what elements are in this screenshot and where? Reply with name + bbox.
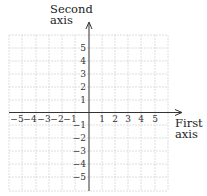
x-tick: −2 xyxy=(50,114,63,124)
coordinate-plane: −5 −4 −3 −2 −1 1 2 3 4 5 5 4 3 2 1 −1 −2… xyxy=(0,0,207,196)
y-tick: 5 xyxy=(80,43,86,53)
y-tick: 2 xyxy=(80,82,86,92)
axes xyxy=(9,22,182,191)
x-tick: 5 xyxy=(152,114,158,124)
x-axis-label: First axis xyxy=(175,118,203,140)
x-tick: 4 xyxy=(138,114,144,124)
x-axis-label-line-2: axis xyxy=(175,129,203,140)
y-tick: 3 xyxy=(80,69,86,79)
y-tick: −1 xyxy=(73,120,86,130)
y-tick: −2 xyxy=(73,133,86,143)
x-tick: −4 xyxy=(23,114,37,124)
y-tick: −4 xyxy=(73,159,87,169)
y-tick: −5 xyxy=(73,172,87,182)
y-tick: 4 xyxy=(80,56,86,66)
x-tick: −3 xyxy=(37,114,51,124)
x-tick: 3 xyxy=(125,114,131,124)
x-tick: −5 xyxy=(10,114,24,124)
x-tick: 1 xyxy=(99,114,105,124)
y-tick: −3 xyxy=(73,146,87,156)
y-tick: 1 xyxy=(80,95,86,105)
x-tick: 2 xyxy=(112,114,118,124)
y-axis-label-line-2: axis xyxy=(50,15,93,26)
y-axis-label: Second axis xyxy=(50,4,93,26)
